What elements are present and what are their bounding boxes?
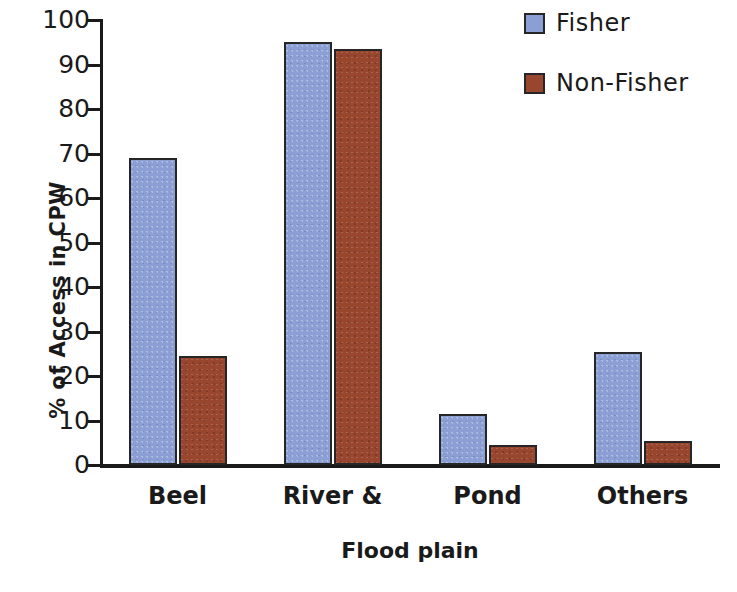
legend-entry-non-fisher: Non-Fisher [524,68,734,98]
bar-chart: % of Access in CPW 100908070605040302010… [0,0,737,592]
y-axis-tick-label: 70 [28,141,90,166]
y-axis-tick-label: 30 [28,319,90,344]
bar-others-fisher [594,352,642,465]
y-axis-tick-mark [86,19,103,22]
x-axis-tick-label-beel: Beel [98,482,258,510]
y-axis-tick-mark [86,464,103,467]
x-axis-tick-label-river: River & [253,482,413,510]
legend-entry-fisher: Fisher [524,8,734,38]
legend-label: Fisher [556,9,630,37]
y-axis-tick-mark [88,242,102,245]
y-axis-tick-mark [88,286,102,289]
x-axis-tick-labels: BeelRiver &PondOthers [100,482,720,522]
y-axis-tick-mark [88,108,102,111]
y-axis-tick-mark [88,153,102,156]
legend-swatch-icon [524,73,545,94]
chart-legend: FisherNon-Fisher [524,8,734,128]
y-axis-tick-label: 20 [28,363,90,388]
bar-river-fisher [284,42,332,465]
y-axis-tick-label: 50 [28,230,90,255]
legend-label: Non-Fisher [556,69,689,97]
y-axis-tick-mark [88,375,102,378]
y-axis-tick-label: 10 [28,408,90,433]
x-axis-tick-label-pond: Pond [408,482,568,510]
bar-pond-fisher [439,414,487,465]
bar-beel-non-fisher [179,356,227,465]
bar-pond-non-fisher [489,445,537,465]
y-axis-tick-label: 0 [28,452,90,477]
y-axis-tick-mark [88,64,102,67]
y-axis-tick-mark [88,197,102,200]
y-axis-tick-mark [88,420,102,423]
x-axis-title: Flood plain [100,538,720,563]
y-axis-tick-label: 60 [28,185,90,210]
bar-river-non-fisher [334,49,382,465]
legend-swatch-icon [524,13,545,34]
y-axis-tick-label: 80 [28,96,90,121]
y-axis-tick-mark [88,331,102,334]
bar-beel-fisher [129,158,177,465]
y-axis-tick-labels: 1009080706050403020100 [28,0,90,592]
y-axis-tick-label: 100 [28,7,90,32]
x-axis-tick-label-others: Others [563,482,723,510]
y-axis-tick-label: 90 [28,52,90,77]
y-axis-tick-label: 40 [28,274,90,299]
bar-others-non-fisher [644,441,692,465]
